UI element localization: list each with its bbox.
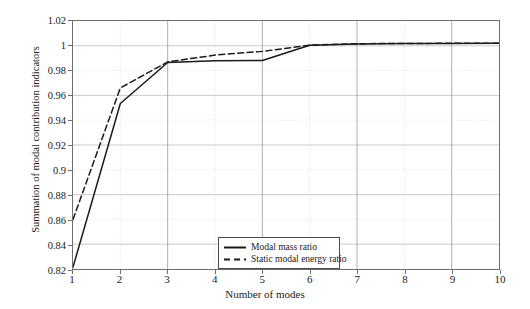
x-axis-label: Number of modes: [0, 288, 530, 300]
data-series-layer: [73, 21, 499, 269]
x-tick-mark: [215, 270, 216, 274]
x-tick-mark: [72, 270, 73, 274]
x-tick-mark: [167, 270, 168, 274]
series-line-0: [73, 43, 499, 267]
y-tick-mark: [68, 170, 72, 171]
x-tick-mark: [120, 270, 121, 274]
y-tick-mark: [68, 70, 72, 71]
legend-label: Static modal energy ratio: [251, 253, 347, 265]
x-tick-label: 10: [485, 273, 515, 285]
plot-area: [72, 20, 500, 270]
legend-item-modal-mass-ratio: Modal mass ratio: [223, 241, 334, 253]
x-tick-mark: [357, 270, 358, 274]
x-tick-label: 7: [342, 273, 372, 285]
x-tick-label: 8: [390, 273, 420, 285]
x-tick-label: 3: [152, 273, 182, 285]
x-tick-mark: [500, 270, 501, 274]
y-tick-mark: [68, 145, 72, 146]
x-tick-mark: [405, 270, 406, 274]
y-tick-mark: [68, 195, 72, 196]
x-tick-label: 2: [105, 273, 135, 285]
legend-label: Modal mass ratio: [251, 241, 317, 253]
x-tick-label: 5: [247, 273, 277, 285]
x-tick-mark: [452, 270, 453, 274]
x-tick-label: 6: [295, 273, 325, 285]
y-tick-mark: [68, 45, 72, 46]
y-tick-mark: [68, 20, 72, 21]
x-tick-mark: [310, 270, 311, 274]
y-tick-mark: [68, 245, 72, 246]
y-tick-mark: [68, 120, 72, 121]
x-tick-label: 4: [200, 273, 230, 285]
y-axis-label: Summation of modal contribution indicato…: [30, 15, 41, 265]
y-tick-mark: [68, 220, 72, 221]
y-tick-mark: [68, 95, 72, 96]
x-tick-label: 9: [437, 273, 467, 285]
chart-legend: Modal mass ratio Static modal energy rat…: [218, 237, 340, 269]
figure-container: 0.820.840.860.880.90.920.940.960.9811.02…: [0, 0, 530, 309]
legend-solid-line-icon: [223, 243, 247, 252]
x-tick-mark: [262, 270, 263, 274]
legend-item-static-modal-energy-ratio: Static modal energy ratio: [223, 253, 334, 265]
series-line-1: [73, 43, 499, 219]
legend-dashed-line-icon: [223, 255, 247, 264]
x-tick-label: 1: [57, 273, 87, 285]
